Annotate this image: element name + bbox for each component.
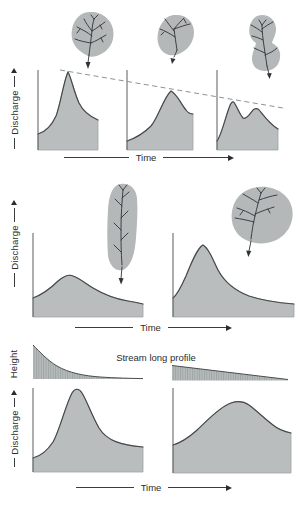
hydrograph-basin-small-two-lobed — [217, 70, 278, 150]
hydrograph-steep-profile — [33, 388, 143, 472]
stream-long-profile-title: Stream long profile — [106, 352, 206, 363]
time-axis-middle: Time — [75, 322, 232, 333]
diagram-artwork — [0, 0, 301, 507]
hydrograph-gentle-profile — [173, 388, 291, 473]
axis-dash — [14, 76, 15, 87]
axis-dash — [14, 273, 15, 287]
two-lobed-basin-icon — [249, 15, 280, 79]
time-label-text: Time — [140, 322, 161, 333]
discharge-axis-label-top: Discharge — [8, 68, 20, 152]
axis-line — [75, 327, 133, 328]
axis-line — [64, 157, 129, 158]
hydrograph-circular-basin — [173, 233, 294, 317]
outlet-stream — [88, 55, 89, 63]
right-arrow-icon — [226, 485, 232, 491]
time-label-text: Time — [136, 152, 157, 163]
time-axis-top: Time — [64, 152, 234, 163]
hydrograph-diagram: Discharge Time Discharge Time Height Str… — [0, 0, 301, 507]
axis-line — [168, 327, 226, 328]
up-arrow-icon — [11, 68, 17, 73]
axis-line — [76, 487, 134, 488]
time-label-text: Time — [141, 482, 162, 493]
outlet-arrow-icon — [171, 58, 176, 64]
discharge-axis-label-middle: Discharge — [8, 200, 20, 290]
axis-line — [168, 487, 226, 488]
axis-line — [163, 157, 228, 158]
right-arrow-icon — [228, 155, 234, 161]
height-label-text: Height — [8, 350, 19, 379]
outlet-arrow-icon — [246, 251, 251, 257]
up-arrow-icon — [11, 390, 17, 395]
circular-basin-icon — [232, 187, 293, 257]
time-axis-bottom: Time — [76, 482, 232, 493]
discharge-label-text: Discharge — [9, 90, 20, 135]
outlet-stream — [249, 241, 251, 251]
hydrograph-basin-large — [38, 70, 98, 150]
discharge-label-text: Discharge — [9, 225, 20, 270]
hydrograph-basin-medium — [127, 70, 193, 150]
outlet-arrow-icon — [119, 278, 124, 284]
elongated-basin-icon — [107, 184, 137, 285]
rounded-basin-icon — [158, 15, 194, 64]
discharge-label-text: Discharge — [9, 410, 20, 455]
axis-dash — [14, 458, 15, 467]
axis-dash — [14, 398, 15, 407]
discharge-axis-label-bottom: Discharge — [8, 390, 20, 470]
outlet-arrow-icon — [267, 73, 272, 79]
axis-dash — [14, 208, 15, 222]
up-arrow-icon — [11, 200, 17, 205]
pear-shaped-basin-icon — [72, 12, 114, 69]
right-arrow-icon — [226, 325, 232, 331]
gentle-long-profile — [172, 366, 288, 381]
height-axis-label: Height — [7, 345, 19, 383]
outlet-arrow-icon — [86, 62, 91, 69]
axis-dash — [14, 138, 15, 149]
